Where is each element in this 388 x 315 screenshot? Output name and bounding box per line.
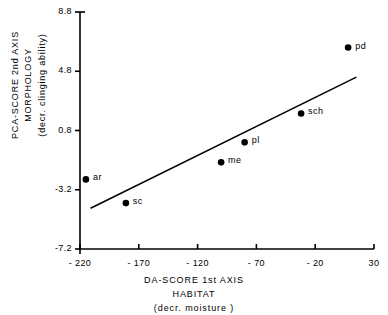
point-label-sc: sc: [133, 196, 143, 206]
y-axis-title: PCA-SCORE 2nd AXIS MORPHOLOGY (decr. cli…: [10, 0, 56, 180]
x-tick-label-2: - 120: [176, 258, 220, 268]
point-label-sch: sch: [308, 106, 324, 116]
scatter-plot-figure: 8.84.80.8-3.2-7.2- 220- 170- 120- 70- 20…: [0, 0, 388, 315]
data-point-ar: [83, 176, 90, 183]
x-tick-label-3: - 70: [234, 258, 278, 268]
trendline: [91, 77, 357, 208]
y-axis-title-line1: PCA-SCORE 2nd AXIS: [10, 0, 20, 180]
data-point-pl: [241, 139, 248, 146]
data-points: [83, 44, 352, 206]
y-axis-title-line2: MORPHOLOGY: [23, 0, 33, 180]
x-tick-label-1: - 170: [117, 258, 161, 268]
x-tick-label-5: 30: [352, 258, 388, 268]
y-tick-label-4: -7.2: [38, 243, 72, 253]
y-axis-title-line3: (decr. clinging ability): [37, 0, 47, 180]
x-tick-label-0: - 220: [58, 258, 102, 268]
regression-line: [91, 77, 357, 208]
point-label-pl: pl: [252, 135, 260, 145]
point-label-pd: pd: [355, 41, 366, 51]
data-point-sch: [298, 110, 305, 117]
point-label-ar: ar: [93, 172, 102, 182]
data-point-me: [218, 159, 225, 166]
x-axis-title-line2: HABITAT: [0, 289, 388, 299]
x-axis-title-line3: (decr. moisture ): [0, 303, 388, 313]
x-tick-label-4: - 20: [293, 258, 337, 268]
data-point-pd: [345, 44, 352, 51]
data-point-sc: [123, 200, 130, 207]
axes-group: [75, 12, 374, 254]
y-tick-label-3: -3.2: [38, 184, 72, 194]
x-axis-title-line1: DA-SCORE 1st AXIS: [0, 275, 388, 285]
point-label-me: me: [228, 155, 242, 165]
